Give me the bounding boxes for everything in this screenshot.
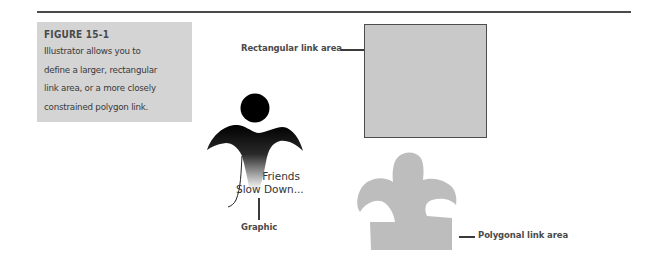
polygonal-link-area-label: Polygonal link area — [478, 230, 568, 240]
illustration-svg — [0, 0, 661, 267]
graphic-leader-line — [258, 198, 260, 220]
logo-head-circle — [241, 94, 270, 123]
polygonal-leader-line — [459, 236, 475, 238]
graphic-label: Graphic — [241, 222, 277, 232]
logo-text-line-1: Friends — [236, 170, 300, 183]
polygonal-link-area[interactable] — [357, 153, 456, 251]
logo-text-line-2: Slow Down... — [236, 183, 300, 196]
